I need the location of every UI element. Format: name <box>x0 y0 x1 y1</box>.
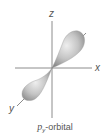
upper-lobe <box>52 31 85 68</box>
orbital-graphic <box>0 0 110 135</box>
y-axis-front <box>17 99 24 106</box>
caption-suffix: -orbital <box>45 122 73 132</box>
orbital-caption: py-orbital <box>0 121 110 135</box>
x-axis-label: x <box>95 63 100 73</box>
lower-lobe <box>22 68 52 101</box>
z-axis-label: z <box>49 9 54 19</box>
y-axis-label: y <box>9 104 14 114</box>
py-orbital-diagram: z x y py-orbital <box>0 0 110 135</box>
